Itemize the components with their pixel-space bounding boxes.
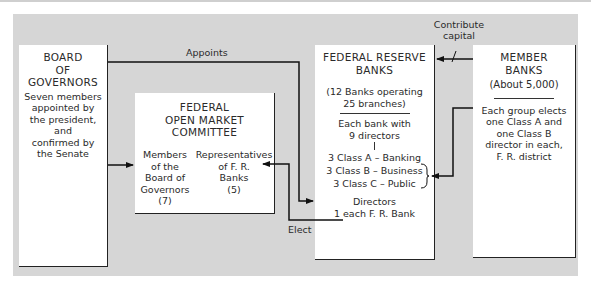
appoints-arrow [108,62,313,201]
class-bracket [421,164,429,188]
connector-lines [0,0,591,289]
member-elects-arrow [432,108,473,176]
elect-arrow [263,164,343,220]
contribute-pointer [452,51,456,62]
